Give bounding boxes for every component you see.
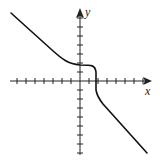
x-axis — [10, 78, 146, 84]
y-axis — [77, 14, 83, 155]
graph: x y — [0, 0, 160, 161]
x-axis-label: x — [144, 84, 151, 98]
y-axis-label: y — [84, 5, 91, 19]
function-curve — [11, 13, 147, 153]
